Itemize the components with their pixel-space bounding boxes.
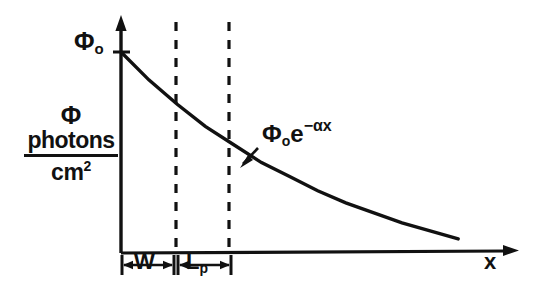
denominator-text: cm	[51, 159, 84, 185]
x-axis-arrowhead	[503, 245, 519, 256]
y-axis-label: Φ photons cm2	[24, 104, 118, 185]
region-label-lp: Lp	[186, 251, 208, 273]
region-label-w: W	[134, 251, 155, 273]
denominator-exponent: 2	[84, 158, 92, 174]
y-axis-units-numerator: photons	[24, 127, 118, 153]
phi0-subscript: o	[95, 40, 104, 57]
x-axis-label: x	[484, 251, 496, 273]
lp-right-arrowhead	[220, 261, 230, 269]
equation-exponent: −αx	[304, 117, 332, 134]
lp-subscript: p	[199, 260, 208, 276]
w-left-arrowhead	[123, 261, 133, 269]
equation-exp-factor: e	[290, 120, 303, 147]
equation-phi-subscript: o	[282, 133, 291, 149]
fraction-bar	[24, 154, 118, 157]
y-axis-units-denominator: cm2	[24, 159, 118, 185]
lp-base-glyph: L	[186, 249, 199, 274]
x-axis-group	[121, 245, 519, 256]
y-axis-units-fraction: photons cm2	[24, 127, 118, 185]
phi0-base-glyph: Φ	[74, 27, 95, 55]
y-axis-phi-glyph: Φ	[24, 104, 118, 126]
x-axis-line	[121, 251, 505, 253]
w-right-arrowhead	[163, 261, 173, 269]
curve-equation-label: Φoe−αx	[262, 122, 332, 146]
y-axis-phi0-label: Φo	[74, 29, 104, 54]
equation-phi-glyph: Φ	[262, 120, 282, 147]
y-axis-arrowhead	[115, 15, 126, 31]
